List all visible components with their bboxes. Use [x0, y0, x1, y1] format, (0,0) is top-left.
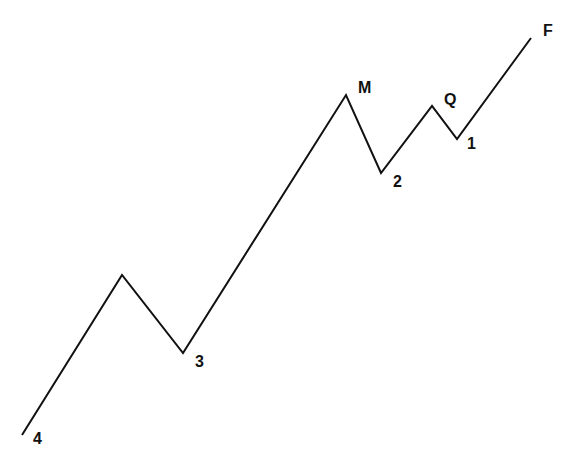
wave-diagram [0, 0, 576, 473]
label-m: M [358, 80, 371, 96]
label-f: F [543, 23, 553, 39]
label-4: 4 [33, 431, 42, 447]
label-1: 1 [467, 136, 476, 152]
label-2: 2 [393, 174, 402, 190]
label-q: Q [444, 92, 456, 108]
label-3: 3 [195, 354, 204, 370]
